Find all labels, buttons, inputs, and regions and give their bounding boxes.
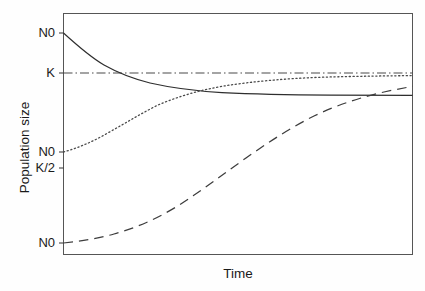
plot-frame	[64, 14, 413, 255]
population-growth-chart: N0 K N0 K/2 N0 Population size Time	[0, 0, 425, 291]
y-axis-label: Population size	[17, 78, 32, 218]
y-tick-label-n0-bottom: N0	[10, 236, 55, 249]
y-tick-marks	[59, 33, 64, 243]
plot-area	[0, 0, 425, 291]
y-tick-label-n0-top: N0	[10, 26, 55, 39]
x-axis-label: Time	[63, 266, 413, 281]
